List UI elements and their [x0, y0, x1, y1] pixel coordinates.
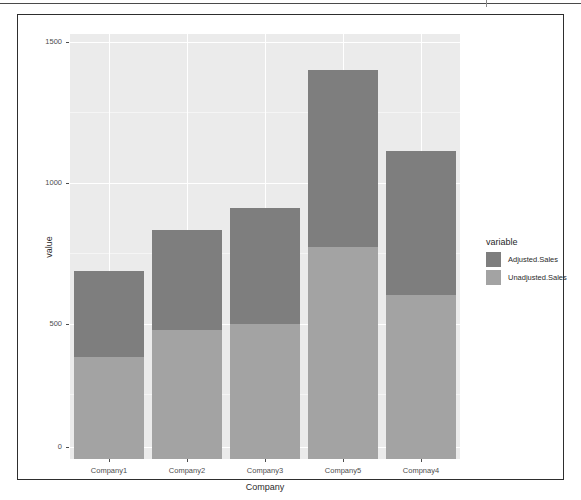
legend-item-adjusted-sales[interactable]: Adjusted.Sales — [486, 252, 581, 267]
page-top-tick-mark — [486, 0, 487, 7]
bar-group-compnay4[interactable] — [386, 46, 456, 459]
bar-segment-unadjusted-compnay4[interactable] — [386, 295, 456, 459]
figure-frame: 1500 1000 500 0 value Company1 Company2 … — [17, 14, 564, 480]
legend-label-adjusted-sales: Adjusted.Sales — [508, 255, 558, 264]
bar-segment-adjusted-company1[interactable] — [74, 271, 144, 357]
y-axis-title: value — [44, 236, 54, 258]
bar-group-company5[interactable] — [308, 46, 378, 459]
y-tick-mark-500 — [66, 324, 69, 325]
x-tick-label-compnay4: Compnay4 — [386, 466, 456, 475]
bar-segment-unadjusted-company2[interactable] — [152, 330, 222, 459]
bar-segment-adjusted-company2[interactable] — [152, 230, 222, 330]
x-tick-mark-company1 — [109, 459, 110, 462]
x-tick-mark-company3 — [265, 459, 266, 462]
bar-segment-adjusted-compnay4[interactable] — [386, 151, 456, 295]
y-tick-label-0: 0 — [30, 443, 62, 451]
bar-segment-unadjusted-company3[interactable] — [230, 324, 300, 459]
bar-segment-unadjusted-company1[interactable] — [74, 357, 144, 459]
legend-item-unadjusted-sales[interactable]: Unadjusted.Sales — [486, 270, 581, 285]
x-axis-title: Company — [70, 482, 460, 492]
bar-group-company2[interactable] — [152, 46, 222, 459]
legend-swatch-adjusted-sales — [486, 252, 501, 267]
bar-segment-unadjusted-company5[interactable] — [308, 247, 378, 459]
y-tick-mark-0 — [66, 447, 69, 448]
y-tick-label-500: 500 — [30, 320, 62, 328]
y-tick-mark-1000 — [66, 183, 69, 184]
y-tick-mark-1500 — [66, 42, 69, 43]
x-tick-label-company5: Company5 — [308, 466, 378, 475]
y-tick-label-1500: 1500 — [30, 38, 62, 46]
legend-label-unadjusted-sales: Unadjusted.Sales — [508, 273, 567, 282]
x-tick-label-company3: Company3 — [230, 466, 300, 475]
y-tick-label-1000: 1000 — [30, 179, 62, 187]
x-tick-label-company1: Company1 — [74, 466, 144, 475]
bar-group-company3[interactable] — [230, 46, 300, 459]
x-tick-label-company2: Company2 — [152, 466, 222, 475]
bar-group-company1[interactable] — [74, 46, 144, 459]
legend-title: variable — [486, 237, 581, 247]
legend-swatch-unadjusted-sales — [486, 270, 501, 285]
plot-panel — [70, 34, 460, 459]
legend: variable Adjusted.Sales Unadjusted.Sales — [486, 237, 581, 288]
page-top-rule — [0, 3, 581, 4]
x-tick-mark-company2 — [187, 459, 188, 462]
bar-segment-adjusted-company3[interactable] — [230, 208, 300, 324]
x-tick-mark-compnay4 — [421, 459, 422, 462]
bar-segment-adjusted-company5[interactable] — [308, 70, 378, 247]
x-tick-mark-company5 — [343, 459, 344, 462]
